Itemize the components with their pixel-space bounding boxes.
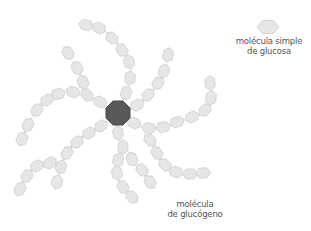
glucose-unit [71, 136, 83, 148]
glucose-unit [77, 75, 89, 89]
chain-upper-left [62, 47, 107, 109]
glucose-unit [205, 91, 216, 106]
glucose-unit [14, 182, 26, 195]
glucose-unit [71, 61, 83, 74]
glucose-unit [62, 47, 74, 60]
glucose-unit [152, 77, 164, 89]
glucose-unit [125, 71, 136, 86]
glucose-unit [158, 64, 170, 78]
chain-down-branch [126, 152, 156, 188]
glucose-unit [111, 166, 122, 181]
glucose-unit [142, 89, 154, 101]
glucose-unit [156, 121, 171, 132]
glucose-unit [79, 19, 94, 30]
glucose-unit [126, 152, 138, 166]
glucose-unit [170, 116, 184, 128]
glucose-unit [169, 166, 183, 178]
simple-glucose-label-line1: molécula simple [226, 36, 311, 46]
glycogen-diagram [0, 0, 311, 231]
glucose-unit [123, 55, 135, 69]
glucose-unit [183, 169, 198, 179]
glucose-unit [205, 76, 215, 91]
glucose-unit [31, 160, 44, 172]
glycogen-core [106, 101, 130, 125]
glucose-unit [136, 164, 148, 176]
glucose-unit [118, 140, 128, 155]
glucose-unit [151, 147, 163, 160]
chain-left-branch [16, 86, 80, 146]
glucose-unit [41, 94, 53, 106]
chain-lower-left-branch [14, 157, 57, 196]
glucose-unit [162, 48, 174, 63]
glucose-unit-icon [257, 21, 279, 34]
simple-glucose-label-line2: de glucosa [226, 46, 311, 56]
glucose-unit [142, 123, 157, 134]
chain-lower-right [144, 134, 211, 179]
glucose-unit [95, 120, 107, 132]
chain-upper-right [131, 48, 174, 111]
glycogen-label: molécula de glucógeno [150, 199, 240, 219]
glucose-unit [51, 175, 63, 189]
glucose-unit [22, 118, 34, 131]
simple-glucose-label: molécula simple de glucosa [226, 36, 311, 56]
glucose-unit [116, 44, 128, 56]
glucose-unit [31, 104, 43, 116]
glucose-unit [61, 147, 73, 160]
glucose-unit [196, 168, 211, 179]
glucose-unit [131, 99, 144, 111]
chain-lower-left [51, 120, 107, 189]
chain-upper-arc [79, 19, 136, 100]
glucose-unit [21, 170, 33, 182]
glycogen-label-line1: molécula [150, 199, 240, 209]
glucose-unit [83, 127, 95, 139]
glucose-unit [92, 22, 105, 34]
glucose-unit [144, 176, 156, 188]
glucose-unit [16, 132, 28, 146]
glucose-unit [126, 191, 138, 203]
glucose-unit [113, 126, 124, 141]
glucose-unit [55, 160, 67, 174]
glucose-unit [66, 86, 80, 98]
glucose-unit [44, 157, 57, 169]
glucose-unit [106, 32, 118, 44]
glucose-unit [144, 134, 156, 146]
glucose-unit [94, 96, 107, 108]
glycogen-label-line2: de glucógeno [150, 209, 240, 219]
glucose-unit [81, 89, 93, 101]
glucose-unit [112, 153, 123, 168]
glucose-unit [120, 86, 132, 100]
glucose-unit [185, 111, 199, 123]
